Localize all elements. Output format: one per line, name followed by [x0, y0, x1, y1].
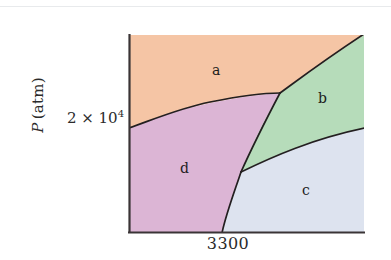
- y-tick-mantissa: 2 × 10: [67, 109, 118, 127]
- region-label-c: c: [302, 182, 310, 198]
- y-axis-label-unit: (atm): [29, 77, 47, 119]
- x-axis-tick-label: 3300: [178, 234, 278, 253]
- y-axis-label: P (atm): [29, 49, 47, 161]
- y-axis-label-symbol: P: [29, 122, 47, 132]
- region-label-a: a: [212, 62, 220, 78]
- phase-diagram-figure: P (atm) 2 × 104 3300 a b c d: [0, 0, 391, 260]
- region-label-b: b: [318, 90, 327, 106]
- y-tick-exponent: 4: [118, 108, 124, 119]
- phase-diagram-plot: [0, 0, 391, 260]
- region-label-d: d: [180, 160, 189, 176]
- y-axis-tick-label: 2 × 104: [46, 108, 124, 127]
- region-fills: [129, 35, 364, 232]
